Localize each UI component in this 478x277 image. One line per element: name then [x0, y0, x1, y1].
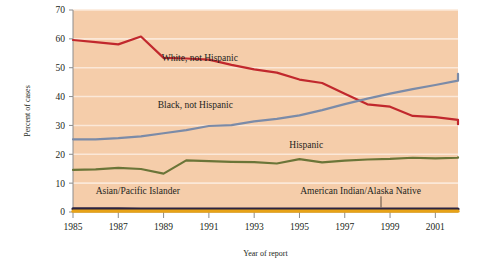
x-axis-tick-label: 1995 [290, 222, 309, 232]
x-axis-tick-label: 1987 [109, 222, 128, 232]
y-axis-tick-label: 30 [56, 121, 66, 131]
x-axis-tick-label: 1989 [154, 222, 173, 232]
y-axis-title: Percent of cases [23, 85, 32, 137]
series-label: Black, not Hispanic [158, 100, 233, 110]
x-axis-tick-label: 1993 [245, 222, 264, 232]
series-label: Hispanic [289, 140, 323, 150]
x-axis-tick-label: 1985 [64, 222, 83, 232]
chart-svg: 010203040506070 198519871989199119931995… [0, 0, 478, 277]
x-axis-title: Year of report [243, 249, 288, 258]
y-axis-tick-label: 40 [56, 92, 66, 102]
y-axis-tick-label: 50 [56, 63, 66, 73]
chart-figure: 010203040506070 198519871989199119931995… [0, 0, 478, 277]
x-axis-tick-label: 2001 [426, 222, 445, 232]
y-axis-tick-label: 70 [56, 5, 66, 15]
y-axis-tick-label: 20 [56, 150, 66, 160]
y-axis-tick-label: 60 [56, 34, 66, 44]
series-label: Asian/Pacific Islander [96, 186, 181, 196]
series-label: American Indian/Alaska Native [300, 186, 421, 196]
x-axis-tick-label: 1999 [381, 222, 400, 232]
y-axis-tick-label: 0 [60, 207, 65, 217]
y-axis-tick-label: 10 [56, 179, 66, 189]
x-axis-tick-label: 1997 [335, 222, 354, 232]
series-label: White, not Hispanic [162, 53, 238, 63]
x-axis-tick-label: 1991 [199, 222, 218, 232]
